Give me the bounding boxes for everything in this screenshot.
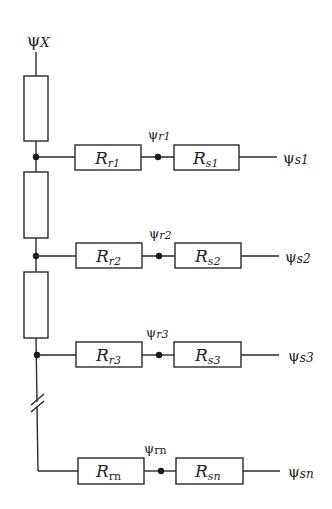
series-resistor-3 [24,272,48,338]
mid-node-n-label: ψrn [144,441,167,457]
branch-3: Rr3 ψr3 Rs3 ψs3 [34,325,314,367]
mid-node-dot [156,253,162,259]
output-3-label: ψs3 [288,347,314,365]
mid-node-3-label: ψr3 [146,325,168,341]
psi-x-label: ψX [27,30,50,50]
branch-n: Rrn ψrn Rsn ψsn [38,441,314,484]
mid-node-2-label: ψr2 [149,226,171,242]
main-wire-bottom [37,407,38,471]
series-resistor-1 [24,76,48,141]
circuit-diagram: ψX Rr1 ψr1 Rs1 ψs1 Rr2 ψr2 Rs2 ψs2 [0,0,332,509]
branch-2: Rr2 ψr2 Rs2 ψs2 [33,226,311,268]
main-wire-seg3 [36,338,37,402]
output-2-label: ψs2 [285,248,311,266]
output-1-label: ψs1 [283,149,309,167]
mid-node-dot [155,154,161,160]
output-n-label: ψsn [288,463,314,481]
mid-node-dot [158,468,164,474]
branch-1: Rr1 ψr1 Rs1 ψs1 [33,127,309,170]
mid-node-dot [156,352,162,358]
mid-node-1-label: ψr1 [148,127,170,143]
series-resistor-2 [24,172,48,238]
